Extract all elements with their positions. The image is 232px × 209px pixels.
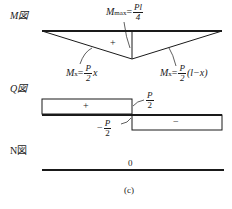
shear-neg-den: 2 bbox=[104, 129, 111, 138]
shear-pos-den: 2 bbox=[147, 101, 154, 110]
shear-pos-value: P2 bbox=[145, 91, 155, 110]
figure-caption: (c) bbox=[124, 186, 134, 195]
max-den: 4 bbox=[135, 13, 142, 22]
right-tail: (l−x) bbox=[187, 67, 208, 78]
right-frac: P2 bbox=[178, 64, 186, 83]
shear-pos-frac: P2 bbox=[146, 91, 154, 110]
shear-neg-leader bbox=[121, 118, 131, 124]
axial-title: N図 bbox=[10, 146, 27, 156]
shear-positive-sign: + bbox=[83, 101, 89, 111]
shear-neg-value: −P2 bbox=[97, 119, 112, 138]
moment-max-label: Mmax=Pl4 bbox=[106, 3, 144, 22]
shear-neg-prefix: − bbox=[97, 122, 103, 133]
left-eq: = bbox=[78, 67, 84, 78]
shear-neg-frac: P2 bbox=[104, 119, 112, 138]
moment-title: M図 bbox=[10, 11, 28, 21]
moment-max-leader bbox=[124, 22, 130, 48]
shear-negative-sign: − bbox=[173, 117, 179, 127]
max-eq: = bbox=[126, 6, 132, 17]
left-den: 2 bbox=[85, 74, 92, 83]
left-frac: P2 bbox=[84, 64, 92, 83]
moment-title-text: M図 bbox=[10, 10, 28, 21]
right-den: 2 bbox=[179, 74, 186, 83]
shear-title: Q図 bbox=[10, 84, 27, 94]
moment-sign: + bbox=[110, 38, 116, 48]
moment-left-leader bbox=[80, 48, 92, 64]
max-frac: Pl4 bbox=[133, 3, 143, 22]
shear-pos-leader bbox=[133, 100, 144, 106]
moment-left-eq: Mx=P2x bbox=[66, 64, 97, 83]
diagram-lines bbox=[0, 0, 232, 209]
max-sub: max bbox=[114, 9, 126, 17]
axial-value: 0 bbox=[128, 159, 133, 168]
right-eq: = bbox=[172, 67, 178, 78]
moment-right-eq: Mx=P2(l−x) bbox=[160, 64, 208, 83]
left-tail: x bbox=[93, 67, 97, 78]
